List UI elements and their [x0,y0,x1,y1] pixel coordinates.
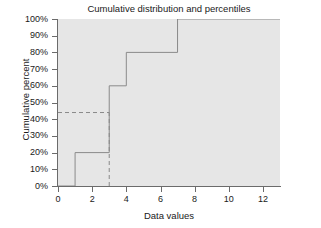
y-tick-mark [52,169,57,170]
y-tick-mark [52,19,57,20]
x-tick-mark [263,187,264,192]
y-tick-label: 0% [35,182,48,191]
y-axis-line [57,19,58,187]
x-tick-mark [58,187,59,192]
x-tick-mark [195,187,196,192]
y-tick-label: 50% [30,98,48,107]
y-tick-label: 100% [25,15,48,24]
y-tick-mark [52,186,57,187]
x-tick-label: 12 [251,194,275,204]
y-tick-label: 60% [30,81,48,90]
x-tick-label: 10 [217,194,241,204]
x-tick-mark [161,187,162,192]
y-axis-title: Cumulative percent [20,30,31,170]
y-tick-mark [52,86,57,87]
y-tick-label: 30% [30,131,48,140]
plot-svg [58,19,280,186]
x-tick-mark [126,187,127,192]
chart-title: Cumulative distribution and percentiles [58,3,280,14]
y-tick-mark [52,103,57,104]
x-tick-label: 0 [46,194,70,204]
plot-area [58,19,280,186]
y-tick-label: 10% [30,165,48,174]
y-tick-mark [52,69,57,70]
x-tick-mark [92,187,93,192]
y-tick-label: 80% [30,48,48,57]
x-tick-label: 6 [149,194,173,204]
y-tick-mark [52,52,57,53]
x-axis-line [57,186,281,187]
cumulative-distribution-chart: Cumulative distribution and percentiles … [0,0,321,228]
y-tick-mark [52,136,57,137]
x-tick-label: 2 [80,194,104,204]
x-tick-mark [229,187,230,192]
y-tick-mark [52,36,57,37]
y-tick-mark [52,153,57,154]
y-tick-label: 20% [30,148,48,157]
y-tick-mark [52,119,57,120]
step-line-cumulative-distribution [58,19,280,186]
x-axis-title: Data values [58,210,280,221]
x-tick-label: 8 [183,194,207,204]
y-tick-label: 90% [30,31,48,40]
x-tick-label: 4 [114,194,138,204]
y-tick-label: 70% [30,65,48,74]
y-tick-label: 40% [30,115,48,124]
